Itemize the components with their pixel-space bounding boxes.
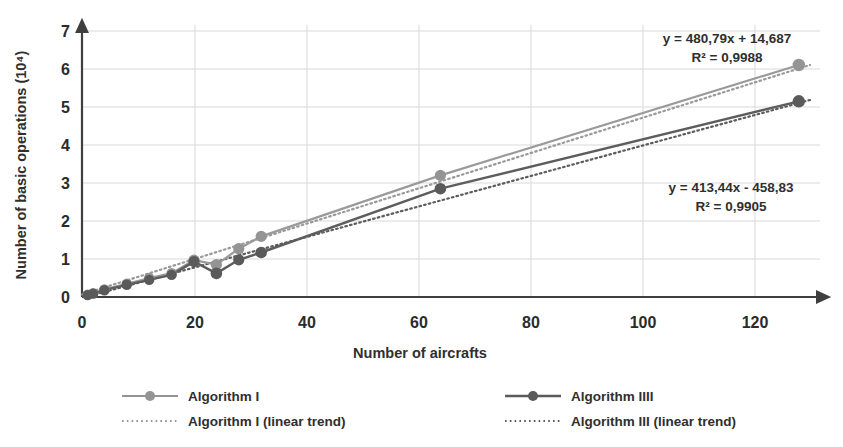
r-squared-text: R² = 0,9988 [692, 50, 763, 65]
data-point [233, 254, 244, 265]
chart-canvas: 0 1 2 3 4 5 6 7 0 20 40 60 80 100 120 Nu… [0, 0, 843, 447]
data-point [188, 256, 199, 267]
x-tick-label: 0 [78, 314, 87, 331]
x-tick-label: 80 [522, 314, 540, 331]
data-point [793, 95, 805, 107]
y-tick-label: 3 [61, 175, 70, 192]
legend-label: Algorithm I (linear trend) [188, 414, 346, 429]
legend-marker-icon [528, 391, 538, 401]
data-point [233, 243, 244, 254]
x-tick-label: 20 [186, 314, 204, 331]
data-point [256, 231, 267, 242]
data-point [255, 247, 267, 259]
equation-text: y = 413,44x - 458,83 [669, 180, 794, 195]
x-tick-label: 120 [742, 314, 769, 331]
data-point [88, 288, 98, 298]
y-tick-label: 0 [61, 289, 70, 306]
data-point [99, 285, 109, 295]
y-tick-label: 7 [61, 23, 70, 40]
data-point [122, 280, 132, 290]
legend-label: Algorithm IIII [571, 389, 654, 404]
x-tick-label: 60 [410, 314, 428, 331]
equation-text: y = 480,79x + 14,687 [663, 31, 791, 46]
x-axis-title: Number of aircrafts [353, 345, 487, 361]
legend-label: Algorithm III (linear trend) [571, 414, 736, 429]
r-squared-text: R² = 0,9905 [696, 199, 767, 214]
data-point [211, 268, 223, 280]
data-point [435, 170, 446, 181]
y-axis-title: Number of basic operations (10⁴) [13, 50, 29, 279]
figure-background [0, 0, 843, 447]
y-tick-label: 6 [61, 61, 70, 78]
data-point [435, 183, 447, 195]
y-tick-label: 5 [61, 99, 70, 116]
y-tick-label: 4 [61, 137, 70, 154]
x-tick-label: 100 [630, 314, 657, 331]
y-tick-label: 1 [61, 251, 70, 268]
legend-label: Algorithm I [188, 389, 259, 404]
x-tick-label: 40 [298, 314, 316, 331]
data-point [793, 59, 805, 71]
legend-marker-icon [145, 391, 155, 401]
data-point [166, 270, 176, 280]
chart-figure: 0 1 2 3 4 5 6 7 0 20 40 60 80 100 120 Nu… [0, 0, 843, 447]
y-tick-label: 2 [61, 213, 70, 230]
data-point [144, 275, 154, 285]
